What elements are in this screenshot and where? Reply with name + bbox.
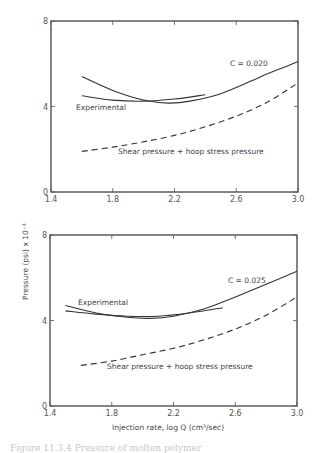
top-experimental-label: Experimental bbox=[76, 103, 126, 112]
y-tick-label: 4 bbox=[42, 317, 47, 326]
figure: 1.41.82.22.63.0048 C = 0.020 Experimenta… bbox=[0, 0, 315, 453]
figure-caption: Figure 11.3.4 Pressure of molten polymer bbox=[10, 443, 202, 453]
x-tick-label: 3.0 bbox=[292, 195, 305, 204]
bottom-c-label: C = 0.025 bbox=[228, 276, 266, 285]
x-tick-label: 2.2 bbox=[168, 195, 181, 204]
y-tick-label: 0 bbox=[42, 402, 47, 411]
y-tick-label: 8 bbox=[42, 231, 47, 240]
x-tick-label: 1.8 bbox=[105, 409, 118, 418]
x-tick-label: 2.2 bbox=[167, 409, 180, 418]
bottom-experimental-label: Experimental bbox=[78, 298, 128, 307]
x-tick-label: 3.0 bbox=[291, 409, 304, 418]
dashed-curve bbox=[82, 83, 298, 151]
x-tick-label: 2.6 bbox=[230, 195, 243, 204]
top-dashed-label: Shear pressure + hoop stress pressure bbox=[118, 147, 264, 156]
bottom-ticks: 1.41.82.22.63.0048 bbox=[42, 231, 303, 418]
y-tick-label: 4 bbox=[43, 103, 48, 112]
solid-curve bbox=[65, 308, 222, 317]
y-tick-label: 0 bbox=[43, 188, 48, 197]
bottom-plot: 1.41.82.22.63.0048 C = 0.025 Experimenta… bbox=[42, 231, 303, 418]
y-axis-title: Pressure (psi) x 10⁻³ bbox=[21, 223, 30, 300]
bottom-curves bbox=[65, 271, 297, 365]
top-plot: 1.41.82.22.63.0048 C = 0.020 Experimenta… bbox=[43, 17, 304, 204]
x-tick-label: 2.6 bbox=[229, 409, 242, 418]
x-axis-title: Injection rate, log Q (cm³/sec) bbox=[112, 423, 224, 432]
top-c-label: C = 0.020 bbox=[230, 59, 268, 68]
x-tick-label: 1.8 bbox=[106, 195, 119, 204]
dashed-curve bbox=[81, 297, 297, 365]
bottom-dashed-label: Shear pressure + hoop stress pressure bbox=[107, 362, 253, 371]
y-tick-label: 8 bbox=[43, 17, 48, 26]
bottom-plot-frame bbox=[50, 235, 297, 406]
